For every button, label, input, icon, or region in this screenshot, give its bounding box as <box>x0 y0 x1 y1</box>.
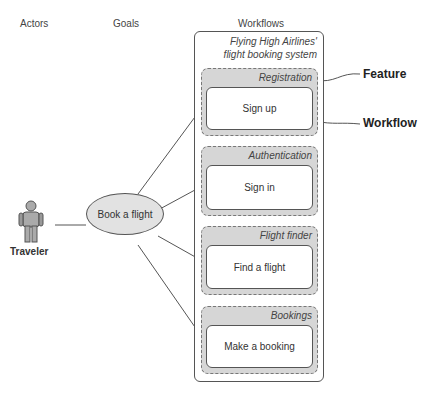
workflow-make-a-booking[interactable]: Make a booking <box>206 325 313 368</box>
workflow-sign-up[interactable]: Sign up <box>206 87 313 130</box>
feature-registration[interactable]: Registration Sign up <box>201 68 318 136</box>
feature-bookings[interactable]: Bookings Make a booking <box>201 306 318 374</box>
feature-flight-finder[interactable]: Flight finder Find a flight <box>201 226 318 295</box>
feature-title: Flight finder <box>260 230 312 241</box>
feature-title: Authentication <box>249 150 312 161</box>
person-icon <box>14 200 48 244</box>
feature-authentication[interactable]: Authentication Sign in <box>201 146 318 216</box>
workflow-find-a-flight[interactable]: Find a flight <box>206 245 313 289</box>
actor-label: Traveler <box>10 246 48 257</box>
workflow-sign-in[interactable]: Sign in <box>206 165 313 210</box>
goal-book-a-flight[interactable]: Book a flight <box>86 193 164 235</box>
system-title: Flying High Airlines' flight booking sys… <box>224 35 317 61</box>
system-boundary: Flying High Airlines' flight booking sys… <box>194 31 324 382</box>
workflow-callout: Workflow <box>363 116 417 130</box>
feature-title: Bookings <box>271 310 312 321</box>
feature-title: Registration <box>259 72 312 83</box>
feature-callout: Feature <box>363 67 406 81</box>
